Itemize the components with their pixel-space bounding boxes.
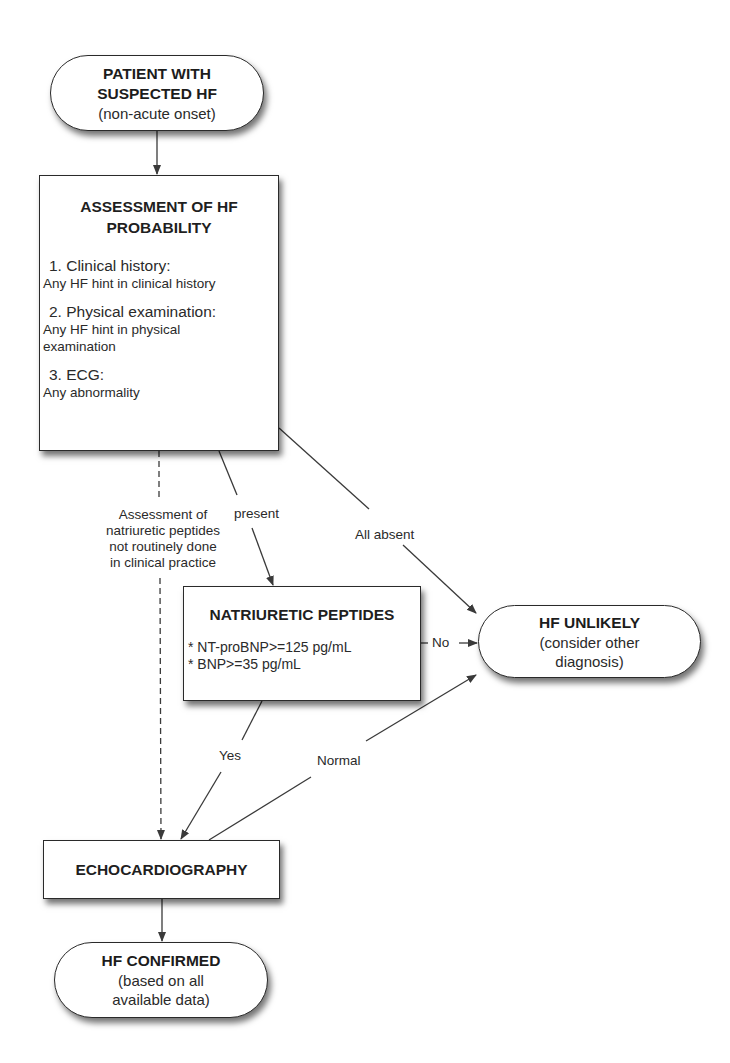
np-criterion: * NT-proBNP>=125 pg/mL (188, 639, 420, 656)
node-title: NATRIURETIC PEPTIDES (184, 587, 420, 625)
node-natriuretic-peptides: NATRIURETIC PEPTIDES * NT-proBNP>=125 pg… (183, 586, 421, 701)
edge-label-yes: Yes (219, 748, 241, 764)
assessment-criteria-list: 1. Clinical history: Any HF hint in clin… (40, 256, 278, 401)
edge-yes-lower (181, 772, 221, 839)
node-patient-suspected-hf: PATIENT WITH SUSPECTED HF (non-acute ons… (50, 55, 264, 131)
note-line: not routinely done (90, 539, 236, 555)
edge-label-present: present (234, 506, 279, 522)
node-subtitle: diagnosis) (555, 652, 623, 671)
node-title: ASSESSMENT OF HF (40, 196, 278, 217)
node-hf-confirmed: HF CONFIRMED (based on all available dat… (54, 942, 268, 1018)
item-body: Any HF hint in clinical history (43, 275, 278, 292)
item-heading: 3. ECG: (43, 365, 278, 384)
np-criterion: * BNP>=35 pg/mL (188, 656, 420, 673)
node-subtitle: (based on all (118, 971, 204, 990)
note-line: natriuretic peptides (90, 523, 236, 539)
node-title: PROBABILITY (40, 217, 278, 238)
assessment-item-physical-exam: 2. Physical examination: Any HF hint in … (43, 302, 278, 355)
node-echocardiography: ECHOCARDIOGRAPHY (43, 840, 280, 899)
node-title: PATIENT WITH (103, 64, 211, 84)
edge-label-all-absent: All absent (355, 527, 414, 543)
node-subtitle: (non-acute onset) (98, 104, 216, 123)
edge-dashed-lower (160, 578, 161, 839)
node-title: SUSPECTED HF (97, 84, 217, 104)
edge-label-np-not-routine: Assessment of natriuretic peptides not r… (90, 507, 236, 571)
node-title: HF CONFIRMED (102, 951, 221, 971)
node-title: HF UNLIKELY (539, 613, 640, 633)
node-subtitle: (consider other (539, 633, 639, 652)
np-criteria-list: * NT-proBNP>=125 pg/mL * BNP>=35 pg/mL (184, 639, 420, 673)
flowchart-canvas: PATIENT WITH SUSPECTED HF (non-acute ons… (0, 0, 730, 1063)
edge-all-absent-upper (279, 428, 369, 509)
item-body: Any HF hint in physical examination (43, 321, 218, 355)
edge-label-normal: Normal (317, 753, 361, 769)
edge-present-lower (252, 528, 273, 585)
edge-label-no: No (432, 635, 449, 651)
edge-normal-lower (209, 777, 311, 840)
node-assessment-hf-probability: ASSESSMENT OF HF PROBABILITY 1. Clinical… (39, 175, 279, 451)
node-title: ECHOCARDIOGRAPHY (44, 860, 279, 880)
edge-present-upper (219, 451, 237, 495)
note-line: Assessment of (90, 507, 236, 523)
note-line: in clinical practice (90, 555, 236, 571)
item-body: Any abnormality (43, 384, 278, 401)
item-heading: 2. Physical examination: (43, 302, 278, 321)
assessment-item-clinical-history: 1. Clinical history: Any HF hint in clin… (43, 256, 278, 292)
item-heading: 1. Clinical history: (43, 256, 278, 275)
edge-yes-upper (242, 701, 262, 740)
node-subtitle: available data) (112, 990, 210, 1009)
assessment-item-ecg: 3. ECG: Any abnormality (43, 365, 278, 401)
node-hf-unlikely: HF UNLIKELY (consider other diagnosis) (478, 605, 701, 678)
